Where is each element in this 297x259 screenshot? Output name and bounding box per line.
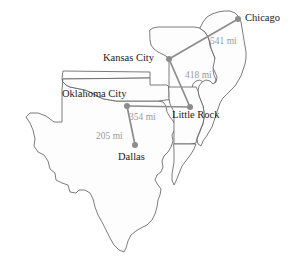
state-outline-louisiana (172, 144, 196, 185)
city-label-little-rock: Little Rock (172, 110, 220, 121)
distance-label-kansas-city-little-rock: 418 mi (185, 71, 212, 81)
city-marker-dallas[interactable] (132, 142, 138, 148)
city-marker-kansas-city[interactable] (166, 56, 172, 62)
map-canvas (0, 0, 297, 259)
distance-label-oklahoma-city-dallas: 205 mi (96, 132, 123, 142)
city-label-oklahoma-city: Oklahoma City (62, 89, 126, 100)
city-marker-oklahoma-city[interactable] (124, 103, 130, 109)
distance-map-figure: Chicago Kansas City Oklahoma City Little… (0, 0, 297, 259)
distance-label-oklahoma-city-little-rock: 354 mi (129, 113, 156, 123)
route-oklahoma-city-little-rock (127, 106, 190, 107)
city-marker-chicago[interactable] (235, 16, 241, 22)
city-label-chicago: Chicago (245, 13, 280, 24)
city-label-dallas: Dallas (118, 152, 145, 163)
city-label-kansas-city: Kansas City (103, 53, 154, 64)
distance-label-kansas-city-chicago: 541 mi (210, 37, 237, 47)
